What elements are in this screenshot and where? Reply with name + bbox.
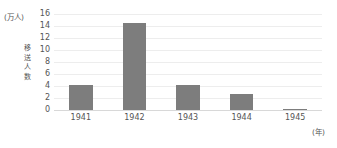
y-tick-label: 6 <box>45 70 50 78</box>
x-tick-label: 1945 <box>285 113 305 123</box>
bar-slot <box>268 14 322 110</box>
x-axis-unit-label: (年) <box>312 126 325 137</box>
y-axis-unit-label: (万人) <box>4 11 24 22</box>
x-tick-label: 1944 <box>231 113 251 123</box>
plot-area <box>54 14 322 110</box>
x-tick-label: 1941 <box>71 113 91 123</box>
bar-series <box>54 14 322 110</box>
x-axis-tick-labels: 19411942194319441945 <box>54 113 322 127</box>
bar-slot <box>108 14 162 110</box>
x-tick-label: 1943 <box>178 113 198 123</box>
bar-slot <box>54 14 108 110</box>
y-tick-label: 4 <box>45 82 50 90</box>
y-axis-tick-labels: 1614121086420 <box>36 0 50 148</box>
y-tick-label: 12 <box>40 34 50 42</box>
y-tick-label: 14 <box>40 22 50 30</box>
bar-slot <box>215 14 269 110</box>
y-tick-label: 8 <box>45 58 50 66</box>
bar-chart: (万人) 移送人数 1614121086420 1941194219431944… <box>0 0 337 148</box>
x-tick-label: 1942 <box>124 113 144 123</box>
axis-baseline <box>54 110 322 111</box>
bar <box>230 94 254 110</box>
y-tick-label: 16 <box>40 10 50 18</box>
bar-slot <box>161 14 215 110</box>
bar <box>69 85 93 110</box>
y-tick-label: 10 <box>40 46 50 54</box>
y-tick-label: 2 <box>45 94 50 102</box>
bar <box>123 23 147 110</box>
y-axis-title: 移送人数 <box>21 44 33 82</box>
bar <box>176 85 200 110</box>
y-tick-label: 0 <box>45 106 50 114</box>
bar <box>283 109 307 111</box>
